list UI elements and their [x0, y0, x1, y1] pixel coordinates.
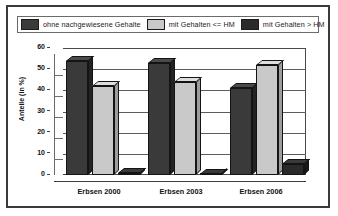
x-category-label-0: Erbsen 2000 — [54, 187, 144, 196]
y-tick-0: 0 — [41, 170, 50, 178]
y-tick-dash-60 — [47, 47, 50, 48]
y-tick-10: 10 — [37, 149, 50, 157]
side-gridline-20 — [54, 138, 63, 139]
y-tick-dash-10 — [47, 152, 50, 153]
y-tick-50: 50 — [37, 64, 50, 72]
y-axis-ticks: 60 50 40 30 20 10 — [28, 47, 50, 188]
bar-face — [92, 86, 114, 175]
x-category-label-1: Erbsen 2003 — [136, 187, 226, 196]
bar-group-erbsen-2003 — [146, 48, 224, 175]
bar-2003-mit-gehalten-groesser-hm[interactable] — [200, 174, 222, 175]
y-axis-title: Anteile (in %) — [18, 77, 25, 121]
bar-2003-mit-gehalten-kleiner-gleich-hm[interactable] — [174, 82, 196, 175]
bar-2000-ohne-nachgewiesene-gehalte[interactable] — [66, 61, 88, 175]
y-tick-label-0: 0 — [41, 170, 45, 178]
y-tick-dash-30 — [47, 110, 50, 111]
plot-side-wall — [54, 48, 63, 181]
plot-floor — [54, 175, 306, 182]
bar-face — [148, 63, 170, 175]
side-gridline-50 — [54, 75, 63, 76]
bar-group-erbsen-2006 — [228, 48, 306, 175]
y-tick-20: 20 — [37, 128, 50, 136]
y-tick-dash-20 — [47, 131, 50, 132]
bar-face — [118, 173, 140, 175]
bar-2000-mit-gehalten-groesser-hm[interactable] — [118, 173, 140, 175]
y-tick-60: 60 — [37, 43, 50, 51]
bar-face — [174, 82, 196, 175]
bar-side — [304, 159, 309, 175]
side-gridline-30 — [54, 117, 63, 118]
y-tick-label-10: 10 — [37, 149, 45, 157]
y-tick-dash-0 — [47, 174, 50, 175]
y-tick-dash-50 — [47, 68, 50, 69]
y-tick-label-30: 30 — [37, 107, 45, 115]
bar-2003-ohne-nachgewiesene-gehalte[interactable] — [148, 63, 170, 175]
y-tick-label-50: 50 — [37, 64, 45, 72]
y-tick-dash-40 — [47, 89, 50, 90]
bar-2006-ohne-nachgewiesene-gehalte[interactable] — [230, 88, 252, 175]
bar-side — [114, 81, 119, 175]
graph-canvas — [54, 48, 306, 181]
side-gridline-10 — [54, 159, 63, 160]
bar-group-erbsen-2000 — [64, 48, 142, 175]
bar-2000-mit-gehalten-kleiner-gleich-hm[interactable] — [92, 86, 114, 175]
bar-face — [282, 164, 304, 175]
bar-face — [256, 65, 278, 175]
bar-side — [278, 60, 283, 175]
x-category-label-2: Erbsen 2006 — [216, 187, 306, 196]
bar-2006-mit-gehalten-groesser-hm[interactable] — [282, 164, 304, 175]
plot-area: Anteile (in %) 60 50 40 30 20 — [8, 7, 332, 210]
chart-frame: ohne nachgewiesene Gehalte mit Gehalten … — [6, 5, 330, 208]
y-tick-30: 30 — [37, 107, 50, 115]
bar-face — [66, 61, 88, 175]
y-tick-label-40: 40 — [37, 85, 45, 93]
y-tick-label-20: 20 — [37, 128, 45, 136]
y-tick-40: 40 — [37, 85, 50, 93]
bar-side — [196, 77, 201, 175]
bar-2006-mit-gehalten-kleiner-gleich-hm[interactable] — [256, 65, 278, 175]
y-tick-label-60: 60 — [37, 43, 45, 51]
side-gridline-40 — [54, 96, 63, 97]
bar-face — [230, 88, 252, 175]
